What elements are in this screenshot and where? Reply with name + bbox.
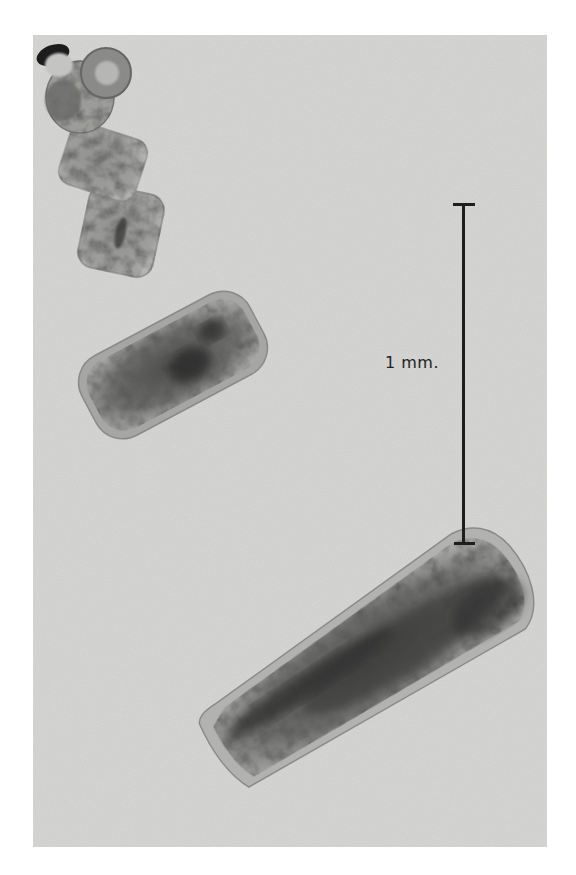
micrograph-photo: 1 mm. [33,35,547,847]
scale-bar-line [462,204,465,544]
scale-bar-label: 1 mm. [385,353,439,372]
scale-bar-bottom-cap [454,542,475,545]
specimen-illustration [33,35,547,847]
